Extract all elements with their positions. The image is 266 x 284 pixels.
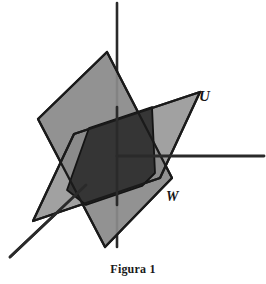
plane-label-u: U (199, 89, 210, 104)
geometry-diagram (0, 0, 266, 284)
figure-caption: Figura 1 (0, 262, 266, 277)
figure-container: U W Figura 1 (0, 0, 266, 284)
plane-label-w: W (166, 190, 178, 204)
